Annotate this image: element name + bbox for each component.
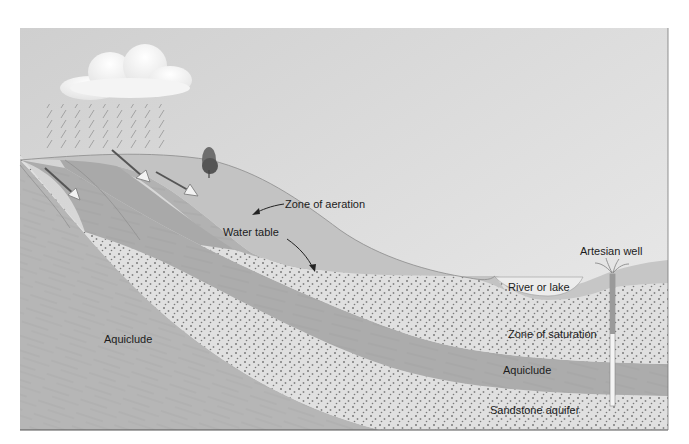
- groundwater-diagram: Zone of aeration Water table Artesian we…: [0, 0, 689, 444]
- label-sandstone-aquifer: Sandstone aquifer: [490, 404, 580, 416]
- label-aquiclude-left: Aquiclude: [104, 333, 152, 345]
- label-zone-of-saturation: Zone of saturation: [508, 328, 597, 340]
- label-water-table: Water table: [223, 226, 279, 238]
- rain-icon: [40, 104, 170, 148]
- label-artesian-well: Artesian well: [580, 245, 642, 257]
- label-aquiclude-right: Aquiclude: [503, 364, 551, 376]
- label-zone-of-aeration: Zone of aeration: [285, 198, 365, 210]
- label-river-or-lake: River or lake: [508, 281, 570, 293]
